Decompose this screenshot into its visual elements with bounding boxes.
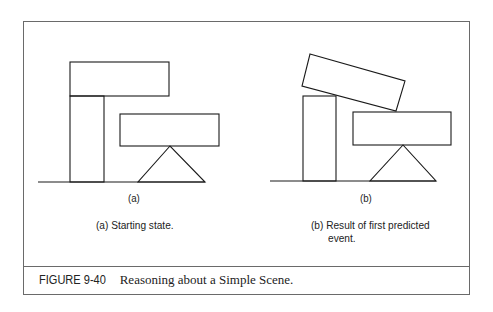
balanced-block-a <box>120 114 219 146</box>
figure-number: FIGURE 9-40 <box>39 273 106 287</box>
fulcrum-triangle-a <box>138 146 205 182</box>
fulcrum-triangle-b <box>370 145 436 181</box>
panel-a-scene <box>38 62 219 182</box>
panel-b-caption-line2: event. <box>328 232 356 245</box>
panel-a-label: (a) <box>128 192 140 204</box>
pillar-block-a <box>70 96 104 182</box>
pillar-block-b <box>303 96 336 181</box>
panel-b-scene <box>270 54 451 181</box>
panel-b-caption-line1: (b) Result of first predicted <box>311 219 430 232</box>
panel-a-caption: (a) Starting state. <box>96 219 174 232</box>
top-block-a <box>70 62 169 96</box>
panel-b-label: (b) <box>360 192 372 204</box>
balanced-block-b <box>353 112 451 145</box>
figure-caption: FIGURE 9-40Reasoning about a Simple Scen… <box>39 272 293 288</box>
scene-diagram <box>0 0 493 312</box>
figure-title: Reasoning about a Simple Scene. <box>120 272 294 287</box>
tilted-block-b <box>302 54 405 111</box>
